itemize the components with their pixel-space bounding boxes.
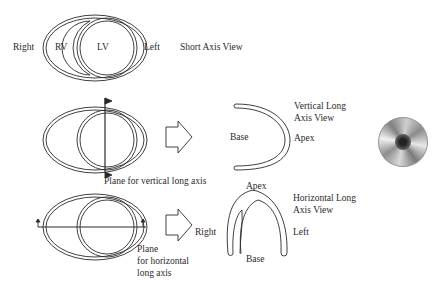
horizontal-long-axis-title-1: Horizontal Long: [293, 193, 356, 204]
polar-map-disk-image: [378, 117, 428, 167]
arrow-right-icon: [166, 209, 192, 241]
short-axis-view-title: Short Axis View: [180, 42, 243, 53]
horizontal-plane-heart-shape: [36, 194, 147, 260]
short-axis-left-label: Left: [144, 42, 160, 53]
horizontal-base-label: Base: [246, 254, 264, 265]
horizontal-right-label: Right: [195, 227, 216, 238]
rv-label: RV: [55, 42, 67, 53]
arrow-right-icon: [166, 121, 192, 153]
horizontal-plane-label-1: Plane: [137, 244, 158, 255]
disk-hub: [395, 134, 411, 150]
horizontal-left-label: Left: [293, 227, 309, 238]
lv-label: LV: [97, 42, 109, 53]
vertical-base-label: Base: [230, 132, 248, 143]
vertical-long-axis-title-2: Axis View: [294, 113, 334, 124]
horizontal-long-axis-title-2: Axis View: [293, 205, 333, 216]
horizontal-apex-label: Apex: [246, 181, 267, 192]
vertical-apex-label: Apex: [294, 133, 315, 144]
vertical-plane-label: Plane for vertical long axis: [104, 176, 206, 187]
short-axis-right-label: Right: [13, 42, 34, 53]
horizontal-plane-label-3: long axis: [137, 268, 172, 279]
vertical-plane-heart-shape: [43, 98, 147, 178]
horizontal-long-axis-shape: [227, 190, 287, 256]
vertical-long-axis-title-1: Vertical Long: [294, 101, 346, 112]
horizontal-plane-label-2: for horizontal: [137, 256, 189, 267]
